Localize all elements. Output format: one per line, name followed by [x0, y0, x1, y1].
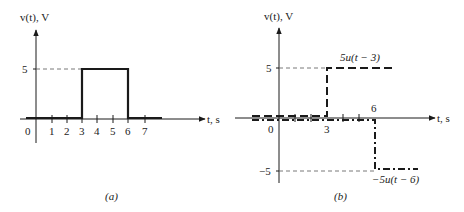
x-tick-4-a: 4: [94, 125, 100, 137]
x-tick-6-b: 6: [371, 102, 377, 114]
y-tick-5-a: 5: [22, 63, 28, 75]
x-tick-0-a: 0: [25, 125, 31, 137]
x-tick-0-b: 0: [268, 123, 274, 135]
x-tick-1-a: 1: [49, 125, 55, 137]
x-tick-3-b: 3: [324, 123, 330, 135]
caption-b: (b): [334, 190, 347, 203]
y-tick-5-b: 5: [266, 62, 272, 74]
pulse-signal: [26, 69, 162, 118]
caption-a: (a): [105, 190, 118, 203]
x-axis-label-a: t, s: [207, 113, 220, 125]
label-neg5u-t-minus-6: −5u(t − 6): [372, 173, 420, 186]
figure-b: v(t), V t, s 5 −5 0 3 6 5u(t − 3) −5u(t …: [235, 10, 450, 203]
figure-a: v(t), V t, s 5 0 1 2 3 4 5 6 7 (a): [20, 11, 220, 203]
x-axis-label-b: t, s: [437, 112, 450, 124]
x-tick-3-a: 3: [79, 125, 85, 137]
y-tick-neg5-b: −5: [259, 165, 271, 177]
label-5u-t-minus-3: 5u(t − 3): [340, 51, 380, 64]
y-axis-label-a: v(t), V: [20, 11, 49, 24]
x-tick-2-a: 2: [64, 125, 70, 137]
step-neg5u-t-minus-6: [252, 120, 418, 169]
y-axis-label-b: v(t), V: [264, 10, 293, 23]
x-tick-5-a: 5: [110, 125, 116, 137]
x-tick-7-a: 7: [142, 125, 148, 137]
x-tick-6-a: 6: [125, 125, 131, 137]
